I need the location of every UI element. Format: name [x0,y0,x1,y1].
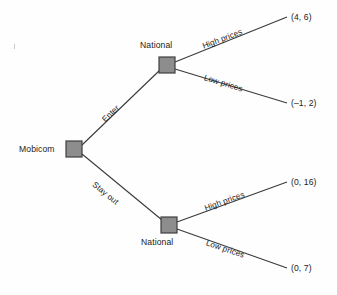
node-label-mobicom: Mobicom [19,145,55,154]
node-national-lower [161,217,177,233]
scan-artifact-speck [14,44,15,49]
node-label-national-upper: National [140,41,172,50]
game-tree-diagram: Mobicom National National Enter Stay out… [0,0,337,295]
payoff-enter-high-prices: (4, 6) [291,13,312,22]
payoff-enter-low-prices: (–1, 2) [291,99,317,108]
payoff-stayout-high-prices: (0, 16) [291,178,317,187]
node-label-national-lower: National [141,238,173,247]
node-national-upper [159,57,175,73]
node-mobicom [66,141,82,157]
payoff-stayout-low-prices: (0, 7) [291,264,312,273]
edge-enter [82,70,160,145]
